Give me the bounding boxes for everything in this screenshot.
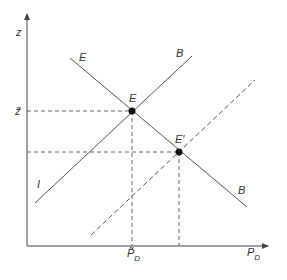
eb-curve — [70, 58, 247, 207]
p-tilde-label: P̃D — [127, 247, 140, 263]
ib-label-bottom: I — [37, 178, 40, 190]
x-axis-label: PD — [247, 246, 260, 262]
ib-shifted-curve — [91, 80, 255, 235]
eb-label-bottom: B — [238, 184, 245, 196]
eb-label-top: E — [79, 51, 87, 63]
equilibrium-point-e — [129, 108, 136, 115]
ib-curve — [35, 56, 192, 203]
point-e-label: E — [129, 92, 137, 104]
diagram-canvas: z z̃ E B E E' B I P̃D PD — [0, 0, 287, 280]
point-e-prime-label: E' — [175, 133, 185, 145]
equilibrium-point-e-prime — [176, 149, 183, 156]
ib-label-top: B — [176, 47, 183, 59]
y-axis-label: z — [15, 26, 22, 38]
z-tilde-label: z̃ — [14, 105, 21, 117]
